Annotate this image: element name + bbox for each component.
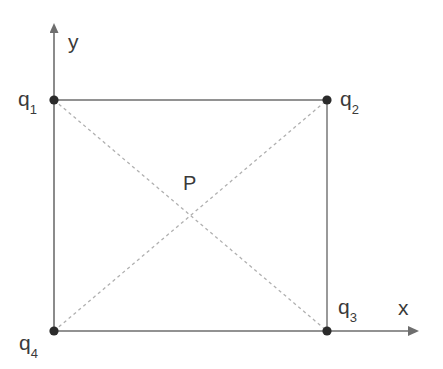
charge-subscript-q1: 1 <box>30 102 37 117</box>
charge-dot-q2 <box>322 95 331 104</box>
charge-label-q2: q2 <box>340 88 359 113</box>
charge-subscript-q3: 3 <box>350 310 357 325</box>
charge-dot-q3 <box>322 326 331 335</box>
charge-rectangle-diagram: y x q1 q2 q3 q4 P <box>0 0 443 369</box>
y-axis-label: y <box>68 31 79 52</box>
charge-symbol-q1: q <box>18 87 30 110</box>
charge-label-q1: q1 <box>18 88 37 113</box>
charge-subscript-q2: 2 <box>352 102 359 117</box>
charge-dot-q1 <box>49 95 58 104</box>
charge-symbol-q4: q <box>19 331 31 354</box>
charge-subscript-q4: 4 <box>31 346 38 361</box>
charge-dot-q4 <box>49 326 58 335</box>
x-axis-label: x <box>398 297 409 318</box>
charge-label-q3: q3 <box>338 296 357 321</box>
point-label-p: P <box>183 173 196 193</box>
charge-symbol-q3: q <box>338 295 350 318</box>
charge-label-q4: q4 <box>19 332 38 357</box>
charge-symbol-q2: q <box>340 87 352 110</box>
diagram-canvas <box>0 0 443 369</box>
